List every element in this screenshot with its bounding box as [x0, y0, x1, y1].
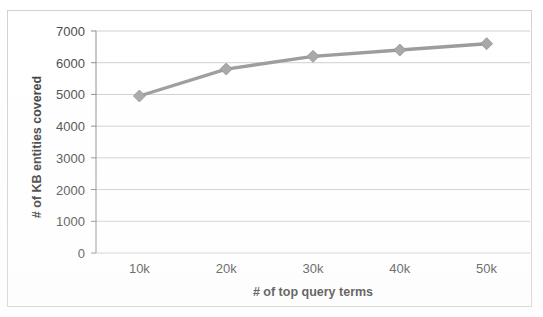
data-point-30k: [307, 50, 319, 62]
y-axis-title: # of KB entities covered: [30, 47, 44, 247]
gridlines: [96, 31, 530, 253]
x-tick-label-10k: 10k: [109, 261, 169, 276]
x-axis-title: # of top query terms: [96, 285, 530, 299]
chart-screenshot: 7000 6000 5000 4000 3000 2000 1000 0 10k…: [0, 0, 543, 317]
data-point-10k: [133, 90, 145, 102]
y-tick-label-7000: 7000: [25, 24, 85, 39]
x-tick-label-40k: 40k: [370, 261, 430, 276]
data-point-40k: [394, 44, 406, 56]
x-tick-label-30k: 30k: [283, 261, 343, 276]
y-axis-ticks: [91, 31, 96, 253]
y-tick-label-0: 0: [25, 246, 85, 261]
x-tick-label-50k: 50k: [457, 261, 517, 276]
data-point-50k: [481, 38, 493, 50]
data-point-20k: [220, 63, 232, 75]
x-tick-label-20k: 20k: [196, 261, 256, 276]
